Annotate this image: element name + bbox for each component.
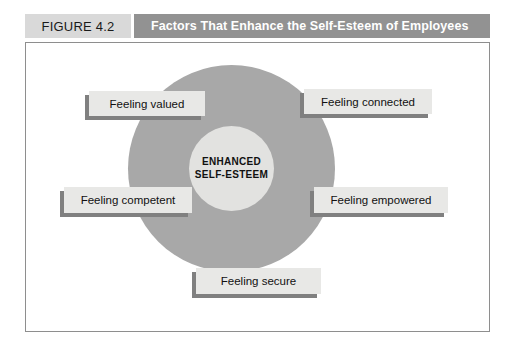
factor-label: Feeling empowered	[330, 194, 431, 206]
inner-circle-hub: ENHANCED SELF-ESTEEM	[189, 126, 274, 211]
figure-number-label: FIGURE 4.2	[25, 14, 131, 38]
self-esteem-diagram: ENHANCED SELF-ESTEEM Feeling valued Feel…	[26, 43, 489, 331]
factor-box-feeling-connected: Feeling connected	[304, 89, 432, 114]
center-label-line-1: ENHANCED	[202, 156, 261, 167]
factor-label: Feeling secure	[221, 275, 296, 287]
factor-box-feeling-competent: Feeling competent	[64, 187, 192, 213]
center-label: ENHANCED SELF-ESTEEM	[195, 156, 268, 181]
figure-content-frame: ENHANCED SELF-ESTEEM Feeling valued Feel…	[25, 42, 490, 332]
figure-header: FIGURE 4.2 Factors That Enhance the Self…	[25, 14, 490, 38]
factor-box-feeling-valued: Feeling valued	[89, 91, 205, 116]
center-label-line-2: SELF-ESTEEM	[195, 169, 268, 180]
factor-box-feeling-empowered: Feeling empowered	[314, 187, 448, 213]
factor-box-feeling-secure: Feeling secure	[196, 268, 321, 294]
figure-title: Factors That Enhance the Self-Esteem of …	[131, 14, 490, 38]
factor-label: Feeling valued	[110, 98, 185, 110]
factor-label: Feeling competent	[81, 194, 176, 206]
factor-label: Feeling connected	[321, 96, 415, 108]
